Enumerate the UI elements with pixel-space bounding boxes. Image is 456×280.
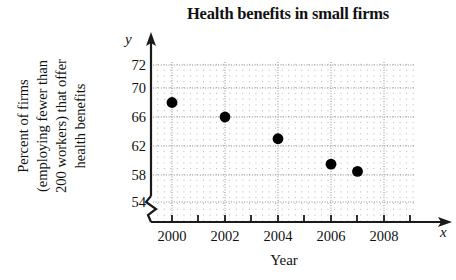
data-point <box>220 112 231 123</box>
scatter-plot-figure: Health benefits in small firms Percent o… <box>0 0 456 280</box>
data-point <box>167 97 178 108</box>
data-point <box>326 159 337 170</box>
plot-area <box>0 0 456 280</box>
grid-lines <box>153 62 415 222</box>
data-point <box>273 133 284 144</box>
data-point <box>352 166 363 177</box>
